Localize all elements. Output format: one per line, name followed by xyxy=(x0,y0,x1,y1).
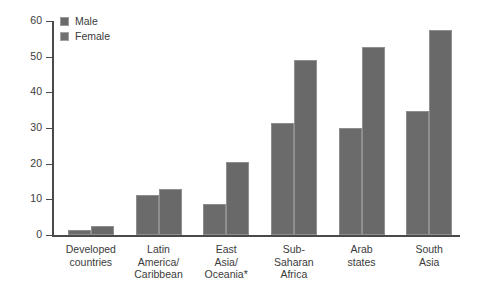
y-tick-label-text: 60 xyxy=(16,15,42,26)
y-tick-label-text: 10 xyxy=(16,193,42,204)
y-tick-mark xyxy=(46,235,52,236)
plot-area xyxy=(54,21,460,235)
y-tick-label: 50 xyxy=(12,51,42,62)
bar-female xyxy=(226,162,249,235)
y-tick-label: 60 xyxy=(12,15,42,26)
bar-female xyxy=(429,30,452,235)
y-tick-label-text: 30 xyxy=(16,122,42,133)
legend-swatch-female-icon xyxy=(60,32,69,41)
x-category-label-line: Africa xyxy=(251,268,337,281)
bar-male xyxy=(271,123,294,235)
x-category-label: SouthAsia xyxy=(386,243,472,268)
legend-swatch-male-icon xyxy=(60,17,69,26)
y-tick-label-text: 0 xyxy=(16,229,42,240)
y-tick-label: 40 xyxy=(12,86,42,97)
bar-male xyxy=(68,230,91,235)
bar-group xyxy=(339,21,385,235)
bar-female xyxy=(362,47,385,235)
bar-group xyxy=(271,21,317,235)
illiteracy-bar-chart: Percentage illiterate 0102030405060 Deve… xyxy=(0,0,500,295)
x-axis-line xyxy=(52,235,460,237)
y-tick-label-text: 50 xyxy=(16,51,42,62)
y-tick-label-text: 20 xyxy=(16,158,42,169)
legend-label-female: Female xyxy=(75,31,110,42)
y-tick-label-text: 40 xyxy=(16,86,42,97)
legend-item-female: Female xyxy=(60,30,110,43)
legend-item-male: Male xyxy=(60,15,110,28)
legend-label-male: Male xyxy=(75,16,98,27)
bar-group xyxy=(136,21,182,235)
y-tick-mark xyxy=(46,57,52,58)
y-tick-mark xyxy=(46,128,52,129)
bar-female xyxy=(91,226,114,235)
x-category-label-line: South xyxy=(386,243,472,256)
chart-legend: Male Female xyxy=(60,15,110,45)
bar-group xyxy=(68,21,114,235)
bar-male xyxy=(339,128,362,235)
bar-group xyxy=(203,21,249,235)
y-tick-mark xyxy=(46,164,52,165)
y-tick-mark xyxy=(46,92,52,93)
bar-male xyxy=(406,111,429,235)
y-tick-label: 30 xyxy=(12,122,42,133)
y-tick-label: 0 xyxy=(12,229,42,240)
y-tick-label: 20 xyxy=(12,158,42,169)
y-tick-mark xyxy=(46,199,52,200)
bar-male xyxy=(136,195,159,235)
y-tick-label: 10 xyxy=(12,193,42,204)
bar-group xyxy=(406,21,452,235)
y-tick-mark xyxy=(46,21,52,22)
x-category-label-line: Asia xyxy=(386,256,472,269)
bar-female xyxy=(294,60,317,235)
bar-female xyxy=(159,189,182,235)
bar-male xyxy=(203,204,226,235)
